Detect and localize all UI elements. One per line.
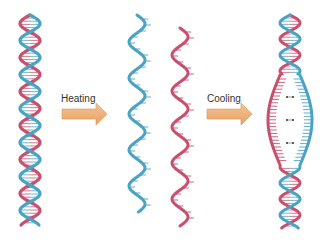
cooling-arrow (207, 103, 252, 125)
reannealed-helix (268, 15, 312, 228)
cooling-label: Cooling (207, 93, 241, 104)
heating-arrow (62, 103, 107, 125)
heating-label: Heating (61, 93, 95, 104)
separated-strand-blue (129, 15, 151, 212)
dna-denaturation-diagram: Heating Cooling (0, 0, 328, 242)
double-helix (20, 15, 40, 225)
separated-strand-red (172, 28, 194, 226)
